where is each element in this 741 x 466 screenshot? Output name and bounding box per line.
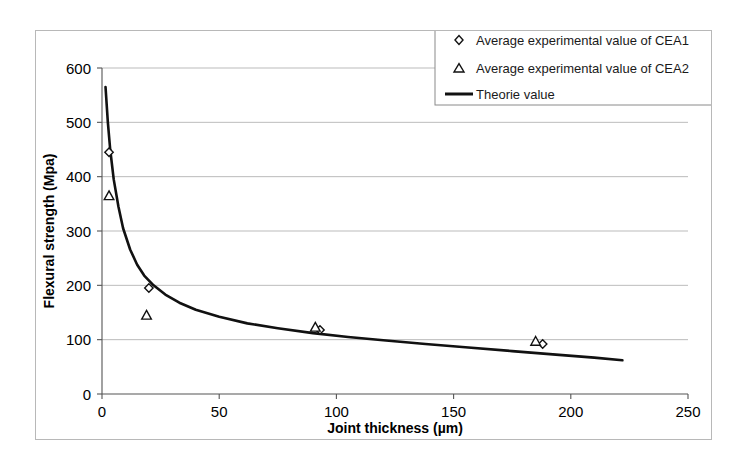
y-tick-label: 100 [66, 331, 91, 348]
x-axis-title: Joint thickness (µm) [327, 420, 463, 436]
y-tick-label: 500 [66, 114, 91, 131]
series-cea1-markers [105, 148, 547, 348]
x-axis-ticks: 050100150200250 [98, 394, 701, 420]
y-tick-label: 600 [66, 60, 91, 77]
x-tick-label: 0 [98, 403, 106, 420]
data-point-cea2 [531, 336, 541, 345]
legend-item-cea2[interactable]: Average experimental value of CEA2 [454, 61, 689, 76]
legend: Average experimental value of CEA1 Avera… [435, 31, 711, 105]
x-tick-label: 250 [675, 403, 700, 420]
y-axis-ticks: 0100200300400500600 [66, 60, 102, 403]
y-tick-label: 0 [83, 386, 91, 403]
legend-label-cea1: Average experimental value of CEA1 [476, 33, 689, 48]
data-point-cea2 [104, 191, 114, 200]
legend-item-cea1[interactable]: Average experimental value of CEA1 [455, 33, 689, 48]
y-tick-label: 200 [66, 277, 91, 294]
series-cea2-markers [104, 191, 540, 345]
legend-label-theorie: Theorie value [476, 87, 555, 102]
theory-curve-group [106, 87, 623, 360]
flexural-strength-scatter-chart: 0100200300400500600 050100150200250 Join… [36, 31, 711, 439]
y-tick-label: 400 [66, 168, 91, 185]
chart-figure: 0100200300400500600 050100150200250 Join… [35, 30, 712, 440]
x-tick-label: 100 [324, 403, 349, 420]
data-point-cea2 [142, 310, 152, 319]
y-axis-title: Flexural strength (Mpa) [41, 154, 57, 309]
x-tick-label: 150 [441, 403, 466, 420]
legend-label-cea2: Average experimental value of CEA2 [476, 61, 689, 76]
x-tick-label: 200 [558, 403, 583, 420]
theory-value-line [106, 87, 623, 360]
gridlines [102, 68, 688, 340]
y-tick-label: 300 [66, 223, 91, 240]
x-tick-label: 50 [211, 403, 228, 420]
